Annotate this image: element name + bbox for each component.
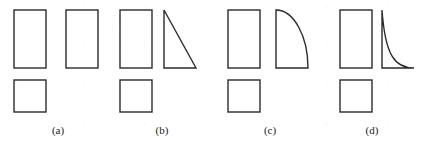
panel-label-d: (d) — [352, 125, 392, 136]
panel-c-rectangle-left — [228, 10, 260, 68]
panel-d-rectangle-left — [340, 10, 372, 68]
shape-layer — [14, 10, 414, 112]
panel-label-a: (a) — [38, 125, 78, 136]
panel-label-b: (b) — [142, 125, 182, 136]
panel-a-rectangle-left — [14, 10, 46, 68]
panel-label-c: (c) — [250, 125, 290, 136]
panel-b-square-bottom — [120, 80, 152, 112]
panel-c-convex-quarter-ellipse-right — [276, 10, 308, 68]
shape-comparison-figure: (a) (b) (c) (d) — [0, 0, 424, 150]
panel-d-concave-decay-curve-right — [382, 10, 414, 68]
panel-d-square-bottom — [340, 80, 372, 112]
panel-a-rectangle-right — [66, 10, 98, 68]
panel-a-square-bottom — [14, 80, 46, 112]
panel-b-triangle-right — [164, 10, 196, 68]
panel-c-square-bottom — [228, 80, 260, 112]
panel-b-rectangle-left — [120, 10, 152, 68]
